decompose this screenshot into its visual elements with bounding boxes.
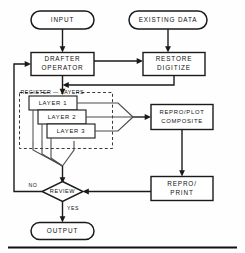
arrowhead-icon — [60, 216, 66, 222]
flowchart-diagram: INPUT EXISTING DATA DRAFTER OPERATOR RES… — [0, 0, 245, 253]
node-layer-2: LAYER 2 — [38, 110, 86, 124]
repro-print-label-line1: REPRO/ — [167, 180, 197, 187]
edge-print-to-review — [83, 189, 152, 195]
node-restore-digitize: RESTORE DIGITIZE — [143, 53, 205, 76]
arrowhead-icon — [165, 46, 171, 52]
repro-print-label-line2: PRINT — [170, 189, 193, 196]
layer-3-label: LAYER 3 — [57, 128, 86, 134]
node-layer-1: LAYER 1 — [29, 96, 77, 110]
edge-drafter-to-restore — [94, 58, 143, 64]
edge-review-no-feedback: NO — [14, 61, 42, 191]
drafter-operator-label-line1: DRAFTER — [44, 55, 80, 62]
layer-1-label: LAYER 1 — [39, 100, 68, 106]
arrowhead-icon — [179, 170, 185, 176]
edge-input-to-drafter — [60, 29, 66, 53]
arrowhead-icon — [137, 58, 143, 64]
node-drafter-operator: DRAFTER OPERATOR — [31, 53, 94, 76]
node-output: OUTPUT — [31, 223, 94, 240]
edge-composite-to-print — [179, 130, 185, 177]
arrowhead-icon — [63, 82, 69, 88]
arrowhead-icon — [25, 61, 31, 67]
edge-review-yes: YES — [60, 202, 79, 223]
review-label: REVIEW — [50, 188, 76, 194]
repro-plot-composite-label-line1: REPRO/PLOT — [160, 109, 205, 115]
edge-restore-to-layers — [63, 76, 175, 88]
output-label: OUTPUT — [47, 227, 78, 234]
drafter-operator-label-line2: OPERATOR — [41, 64, 83, 71]
layers-merge-funnel-bottom — [33, 141, 74, 184]
repro-plot-composite-label-line2: COMPOSITE — [161, 118, 203, 124]
existing-data-label: EXISTING DATA — [139, 16, 198, 23]
restore-digitize-label-line2: DIGITIZE — [157, 64, 191, 71]
input-label: INPUT — [51, 16, 74, 23]
restore-digitize-label-line1: RESTORE — [156, 55, 193, 62]
node-repro-plot-composite: REPRO/PLOT COMPOSITE — [151, 105, 213, 130]
node-input: INPUT — [31, 11, 94, 29]
review-no-label: NO — [29, 182, 38, 188]
arrowhead-icon — [145, 114, 151, 120]
edge-existing-to-restore — [165, 29, 171, 53]
flowchart-canvas: INPUT EXISTING DATA DRAFTER OPERATOR RES… — [0, 0, 245, 253]
node-repro-print: REPRO/ PRINT — [151, 177, 213, 201]
register-layers-label: REGISTER — LAYERS — [21, 89, 84, 95]
node-existing-data: EXISTING DATA — [129, 11, 207, 29]
layer-2-label: LAYER 2 — [48, 114, 77, 120]
node-review: REVIEW — [42, 182, 83, 202]
review-yes-label: YES — [67, 205, 79, 211]
node-layer-3: LAYER 3 — [47, 124, 95, 138]
arrowhead-icon — [60, 46, 66, 52]
